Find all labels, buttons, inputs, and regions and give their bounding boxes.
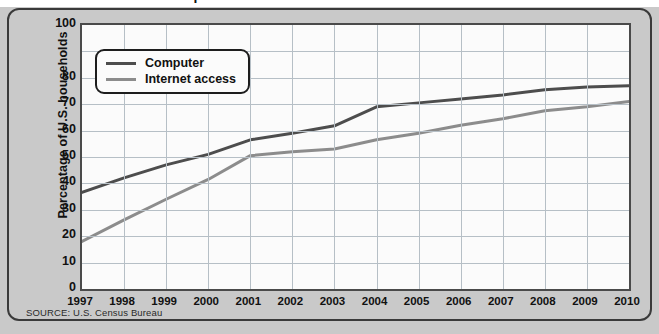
y-tick-100: 100 <box>42 16 76 30</box>
chart-title-text: Computer and Internet Access in U.S. Hou… <box>163 0 497 3</box>
x-axis-tick-labels: 1997199819992000200120022003200420052006… <box>80 295 631 311</box>
y-tick-10: 10 <box>42 254 76 268</box>
chart-panel: Percentage of U.S. households 1008070605… <box>7 8 652 321</box>
y-tick-80: 80 <box>42 69 76 83</box>
gridline-vertical <box>461 25 462 289</box>
source-note: SOURCE: U.S. Census Bureau <box>26 307 162 318</box>
legend-swatch-computer <box>106 62 136 65</box>
x-tick-2004: 2004 <box>353 295 397 307</box>
x-tick-2005: 2005 <box>395 295 439 307</box>
series-line-computer <box>82 86 629 193</box>
x-tick-1997: 1997 <box>58 295 102 307</box>
gridline-horizontal <box>82 131 629 132</box>
x-tick-2007: 2007 <box>479 295 523 307</box>
y-tick-0: 0 <box>42 280 76 294</box>
gridline-horizontal <box>82 263 629 264</box>
y-tick-60: 60 <box>42 122 76 136</box>
legend-swatch-internet-access <box>106 78 136 81</box>
gridline-horizontal <box>82 104 629 105</box>
x-tick-2002: 2002 <box>268 295 312 307</box>
y-tick-70: 70 <box>42 95 76 109</box>
gridline-vertical <box>377 25 378 289</box>
chart-figure: Computer and Internet Access in U.S. Hou… <box>0 0 659 334</box>
gridline-horizontal <box>82 236 629 237</box>
gridline-horizontal <box>82 157 629 158</box>
x-tick-2010: 2010 <box>605 295 649 307</box>
y-tick-30: 30 <box>42 201 76 215</box>
x-tick-2008: 2008 <box>521 295 565 307</box>
y-tick-20: 20 <box>42 227 76 241</box>
y-axis-tick-labels: 10080706050403020100 <box>36 23 76 291</box>
legend-item-computer: Computer <box>106 55 236 71</box>
gridline-horizontal <box>82 210 629 211</box>
x-tick-2003: 2003 <box>310 295 354 307</box>
chart-title-clipped: Computer and Internet Access in U.S. Hou… <box>0 0 659 7</box>
x-tick-1999: 1999 <box>142 295 186 307</box>
legend-label-computer: Computer <box>145 56 204 70</box>
x-tick-1998: 1998 <box>100 295 144 307</box>
x-tick-2006: 2006 <box>437 295 481 307</box>
gridline-horizontal <box>82 183 629 184</box>
x-tick-2001: 2001 <box>226 295 270 307</box>
gridline-vertical <box>503 25 504 289</box>
gridline-vertical <box>250 25 251 289</box>
chart-legend: Computer Internet access <box>95 49 250 94</box>
gridline-vertical <box>545 25 546 289</box>
series-line-internet-access <box>82 102 629 242</box>
legend-label-internet-access: Internet access <box>145 72 236 86</box>
y-tick-40: 40 <box>42 174 76 188</box>
y-tick-50: 50 <box>42 148 76 162</box>
gridline-vertical <box>292 25 293 289</box>
x-tick-2000: 2000 <box>184 295 228 307</box>
x-tick-2009: 2009 <box>563 295 607 307</box>
gridline-vertical <box>334 25 335 289</box>
gridline-vertical <box>587 25 588 289</box>
legend-item-internet-access: Internet access <box>106 71 236 87</box>
gridline-vertical <box>419 25 420 289</box>
